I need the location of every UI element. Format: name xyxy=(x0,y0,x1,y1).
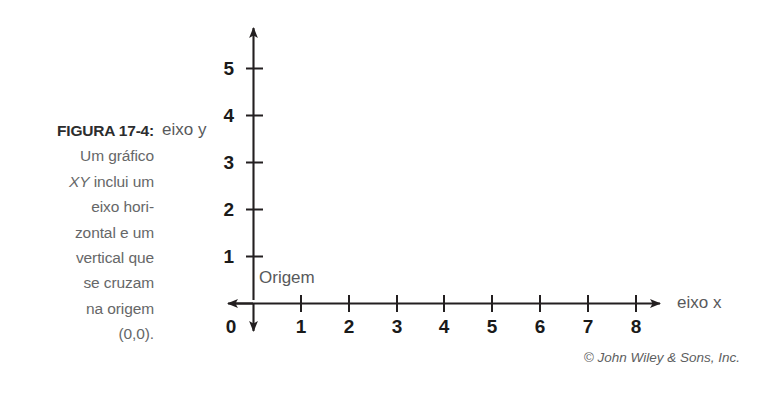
axes-svg xyxy=(0,0,774,399)
x-tick-label-1: 1 xyxy=(288,316,314,338)
x-tick-label-0: 0 xyxy=(218,316,244,338)
x-axis-title: eixo x xyxy=(677,293,721,313)
x-tick-label-7: 7 xyxy=(575,316,601,338)
y-tick-label-4: 4 xyxy=(208,105,234,127)
copyright-credit: © John Wiley & Sons, Inc. xyxy=(584,350,740,365)
x-tick-label-8: 8 xyxy=(623,316,649,338)
y-axis-title: eixo y xyxy=(162,120,206,140)
x-tick-label-5: 5 xyxy=(479,316,505,338)
y-tick-label-1: 1 xyxy=(208,246,234,268)
y-tick-label-3: 3 xyxy=(208,152,234,174)
x-tick-label-6: 6 xyxy=(527,316,553,338)
x-tick-label-2: 2 xyxy=(336,316,362,338)
x-tick-label-3: 3 xyxy=(384,316,410,338)
y-tick-label-5: 5 xyxy=(208,58,234,80)
y-tick-label-2: 2 xyxy=(208,199,234,221)
origin-annotation: Origem xyxy=(259,268,315,288)
xy-axes-figure: 1 2 3 4 5 0 1 2 3 4 5 6 7 8 eixo y eixo … xyxy=(0,0,774,399)
x-tick-label-4: 4 xyxy=(431,316,457,338)
